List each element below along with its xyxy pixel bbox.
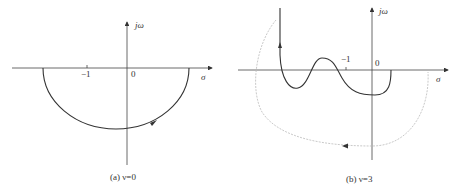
caption-a: (a) ν=0 [110,172,136,182]
origin-label-a: 0 [131,69,136,79]
caption-b: (b) ν=3 [346,174,372,184]
y-axis-label-b: jω [379,6,388,16]
x-axis-label-a: σ [201,72,205,82]
y-axis-label-a: jω [135,20,144,30]
x-axis-label-b: σ [436,74,440,84]
figure-a [12,22,212,165]
direction-arrow-icon [278,42,282,48]
tick-minus-one-a: −1 [81,69,91,79]
tick-minus-one-b: −1 [341,54,351,64]
nyquist-diagrams [0,0,452,189]
direction-arrow-icon [342,144,348,149]
auxiliary-arc [256,20,429,146]
nyquist-curve-b [280,8,391,95]
origin-label-b: 0 [375,58,380,68]
nyquist-curve-a [43,68,189,129]
figure-b [238,8,448,160]
